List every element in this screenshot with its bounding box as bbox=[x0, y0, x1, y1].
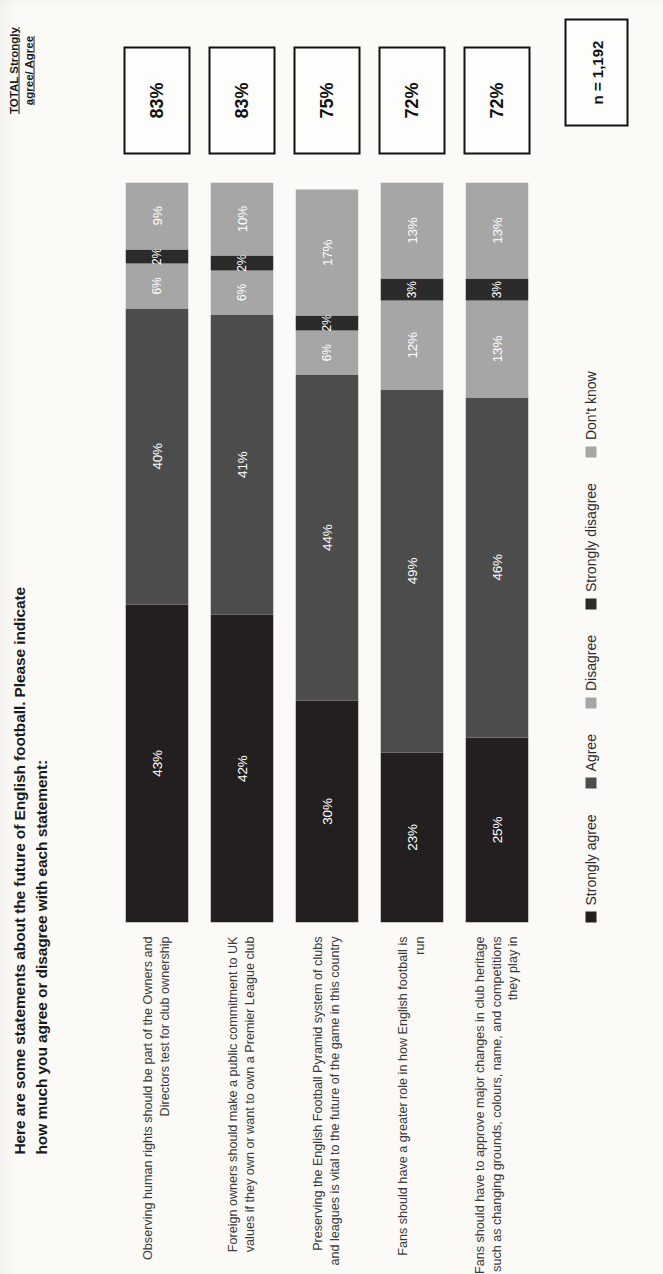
scanned-page: Here are some statements about the futur… bbox=[0, 0, 663, 1274]
bar-segment-strongly-disagree: 3% bbox=[465, 278, 528, 300]
total-agree-box: 72% bbox=[378, 46, 445, 154]
segment-value-label: 2% bbox=[319, 314, 333, 331]
segment-value-label: 10% bbox=[234, 205, 249, 231]
bar-segment-agree: 49% bbox=[380, 389, 443, 752]
chart-row: Observing human rights should be part of… bbox=[118, 0, 194, 1274]
bar-segment-agree: 46% bbox=[465, 397, 528, 737]
chart-row: Foreign owners should make a public comm… bbox=[203, 0, 279, 1274]
chart-row: Fans should have to approve major change… bbox=[458, 0, 534, 1274]
bar-segment-don-t-know: 17% bbox=[295, 189, 358, 315]
segment-value-label: 46% bbox=[489, 554, 504, 580]
segment-value-label: 43% bbox=[149, 750, 164, 776]
chart-canvas: Here are some statements about the futur… bbox=[0, 0, 663, 1274]
segment-value-label: 13% bbox=[489, 217, 504, 243]
bar-segment-strongly-agree: 25% bbox=[465, 737, 528, 922]
sample-size-box: n = 1,192 bbox=[564, 18, 628, 126]
bar-segment-disagree: 6% bbox=[210, 270, 273, 314]
bar-segment-strongly-agree: 23% bbox=[380, 752, 443, 922]
stacked-bar: 42%41%6%2%10% bbox=[210, 182, 273, 922]
segment-value-label: 6% bbox=[319, 344, 333, 361]
legend-swatch-icon bbox=[585, 777, 596, 788]
segment-value-label: 3% bbox=[404, 281, 418, 298]
sample-size-label: n = 1,192 bbox=[588, 40, 605, 104]
segment-value-label: 30% bbox=[319, 798, 334, 824]
segment-value-label: 2% bbox=[149, 248, 163, 265]
statement-label: Foreign owners should make a public comm… bbox=[224, 922, 257, 1274]
legend-item: Strongly disagree bbox=[582, 483, 598, 609]
total-column-header-text: TOTAL Strongly agree/ Agree bbox=[7, 27, 34, 114]
total-column-header: TOTAL Strongly agree/ Agree bbox=[6, 18, 36, 122]
legend-label: Agree bbox=[582, 734, 598, 771]
stacked-bar: 23%49%12%3%13% bbox=[380, 182, 443, 922]
legend-label: Disagree bbox=[582, 635, 598, 691]
stacked-bar: 25%46%13%3%13% bbox=[465, 182, 528, 922]
bar-segment-don-t-know: 13% bbox=[465, 182, 528, 278]
bar-segment-don-t-know: 13% bbox=[380, 182, 443, 278]
bar-segment-strongly-disagree: 2% bbox=[125, 249, 188, 264]
total-agree-box: 83% bbox=[123, 46, 190, 154]
segment-value-label: 12% bbox=[404, 332, 419, 358]
bar-segment-don-t-know: 10% bbox=[210, 182, 273, 255]
bar-segment-strongly-disagree: 2% bbox=[210, 255, 273, 270]
segment-value-label: 13% bbox=[489, 335, 504, 361]
segment-value-label: 6% bbox=[234, 284, 248, 301]
total-agree-box: 75% bbox=[293, 46, 360, 154]
chart-title: Here are some statements about the futur… bbox=[8, 554, 53, 1154]
bar-segment-don-t-know: 9% bbox=[125, 182, 188, 249]
segment-value-label: 41% bbox=[234, 451, 249, 477]
segment-value-label: 9% bbox=[149, 206, 164, 225]
bar-segment-strongly-agree: 42% bbox=[210, 614, 273, 922]
rotated-chart-wrapper: Here are some statements about the futur… bbox=[0, 0, 663, 1274]
segment-value-label: 13% bbox=[404, 217, 419, 243]
bar-segment-disagree: 6% bbox=[125, 263, 188, 307]
segment-value-label: 2% bbox=[234, 254, 248, 271]
bar-segment-strongly-disagree: 3% bbox=[380, 278, 443, 300]
bar-segment-disagree: 6% bbox=[295, 330, 358, 374]
total-agree-value: 83% bbox=[231, 82, 252, 118]
legend-swatch-icon bbox=[585, 697, 596, 708]
statement-label: Observing human rights should be part of… bbox=[139, 922, 172, 1274]
legend-label: Strongly disagree bbox=[582, 483, 598, 592]
legend-item: Don't know bbox=[582, 371, 598, 457]
segment-value-label: 23% bbox=[404, 824, 419, 850]
stacked-bar: 43%40%6%2%9% bbox=[125, 182, 188, 922]
total-agree-box: 83% bbox=[208, 46, 275, 154]
bar-rows: Observing human rights should be part of… bbox=[118, 0, 543, 1274]
total-agree-value: 75% bbox=[316, 82, 337, 118]
total-agree-box: 72% bbox=[463, 46, 530, 154]
bar-segment-disagree: 12% bbox=[380, 300, 443, 389]
legend-item: Strongly agree bbox=[582, 814, 598, 922]
bar-segment-strongly-agree: 43% bbox=[125, 604, 188, 922]
total-agree-value: 72% bbox=[401, 82, 422, 118]
bar-segment-agree: 44% bbox=[295, 374, 358, 700]
bar-segment-agree: 41% bbox=[210, 314, 273, 614]
legend-swatch-icon bbox=[585, 598, 596, 609]
segment-value-label: 40% bbox=[149, 443, 164, 469]
legend-swatch-icon bbox=[585, 911, 596, 922]
bar-segment-strongly-disagree: 2% bbox=[295, 315, 358, 330]
segment-value-label: 6% bbox=[149, 277, 163, 294]
bar-segment-agree: 40% bbox=[125, 308, 188, 604]
chart-row: Preserving the English Football Pyramid … bbox=[288, 0, 364, 1274]
statement-label: Fans should have to approve major change… bbox=[471, 922, 521, 1274]
legend-item: Agree bbox=[582, 734, 598, 788]
segment-value-label: 49% bbox=[404, 557, 419, 583]
bar-segment-strongly-agree: 30% bbox=[295, 700, 358, 922]
statement-label: Preserving the English Football Pyramid … bbox=[309, 922, 342, 1274]
statement-label: Fans should have a greater role in how E… bbox=[394, 922, 427, 1274]
chart-legend: Strongly agreeAgreeDisagreeStrongly disa… bbox=[582, 162, 598, 922]
total-agree-value: 72% bbox=[486, 82, 507, 118]
bar-segment-disagree: 13% bbox=[465, 300, 528, 396]
segment-value-label: 17% bbox=[319, 239, 334, 265]
segment-value-label: 3% bbox=[489, 281, 503, 298]
stacked-bar: 30%44%6%2%17% bbox=[295, 182, 358, 922]
legend-label: Strongly agree bbox=[582, 814, 598, 905]
segment-value-label: 44% bbox=[319, 524, 334, 550]
total-agree-value: 83% bbox=[146, 82, 167, 118]
legend-swatch-icon bbox=[585, 446, 596, 457]
segment-value-label: 42% bbox=[234, 755, 249, 781]
legend-item: Disagree bbox=[582, 635, 598, 708]
chart-row: Fans should have a greater role in how E… bbox=[373, 0, 449, 1274]
legend-label: Don't know bbox=[582, 371, 598, 440]
segment-value-label: 25% bbox=[489, 816, 504, 842]
